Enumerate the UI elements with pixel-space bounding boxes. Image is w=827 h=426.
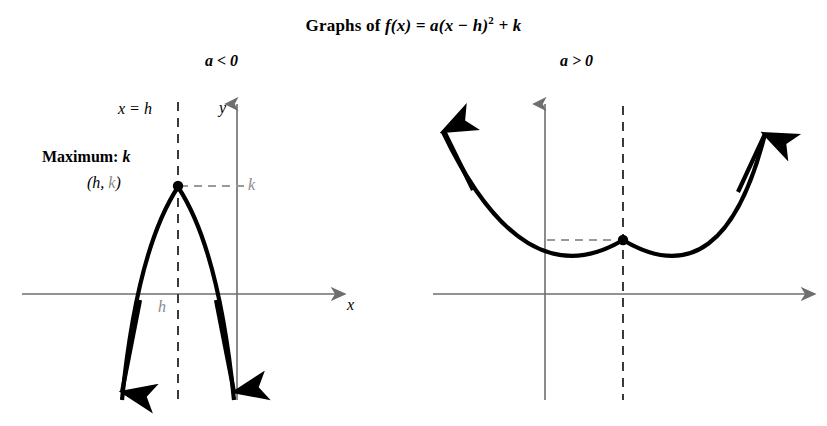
vertex-type-label-left: Maximum: k	[42, 148, 130, 166]
figure-canvas: Graphs of f(x) = a(x − h)2 + k a < 0 a >…	[0, 0, 827, 426]
vertex-type-text-left: Maximum:	[42, 148, 122, 165]
vertex-type-value-left: k	[122, 148, 130, 165]
graph-left-svg	[0, 0, 414, 426]
vertex-coordinates-left: (h, k)	[87, 174, 121, 192]
panel-a-negative: x = h y Maximum: k (h, k) k h x	[0, 0, 414, 426]
axis-of-symmetry-label-left: x = h	[118, 100, 152, 118]
parabola-left-branch-arrow-right	[444, 131, 473, 190]
graph-right-svg	[413, 0, 827, 426]
x-tick-label-left: h	[158, 298, 166, 316]
parabola-right-branch-arrow	[216, 300, 234, 392]
x-axis-label-left: x	[347, 296, 354, 314]
y-axis-label-left: y	[219, 99, 226, 117]
parabola-curve-right	[443, 132, 765, 256]
vertex-point-right	[618, 235, 628, 245]
parabola-left-branch-arrow	[122, 300, 140, 392]
y-tick-label-left: k	[248, 176, 255, 194]
panel-a-positive: y x = h k Minimum: k (h, k) h x	[413, 0, 827, 426]
vertex-paren-close-left: )	[115, 174, 120, 191]
vertex-point-left	[173, 181, 183, 191]
